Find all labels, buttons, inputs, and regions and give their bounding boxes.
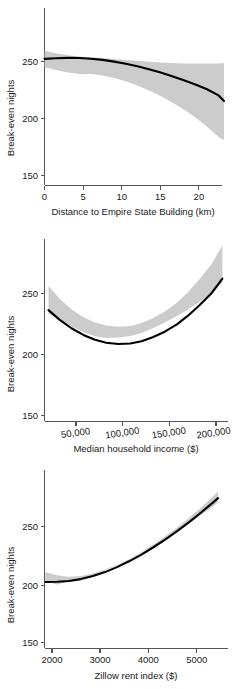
panel-1-xtick-label-10: 10 [116, 191, 127, 202]
panel-3-svg: 250 200 150 2000 3000 4000 5000 Zillow r… [0, 460, 237, 689]
panel-2-confidence-ribbon [49, 245, 223, 338]
figure-container: 250 200 150 0 5 10 15 20 Distance to Emp… [0, 0, 237, 689]
panel-1-y-axis-title: Break-even nights [5, 79, 16, 156]
panel-2-xtick-label-50000: 50,000 [60, 425, 90, 440]
panel-2-svg: 250 200 150 50,000 100,000 150,000 200,0… [0, 230, 237, 460]
panel-2-xtick-label-200000: 200,000 [196, 425, 232, 441]
panel-3-fit-line [45, 498, 218, 582]
panel-3-xtick-label-3000: 3000 [89, 654, 110, 665]
panel-distance-to-empire-state-building: 250 200 150 0 5 10 15 20 Distance to Emp… [0, 0, 237, 230]
panel-2-ytick-label-200: 200 [22, 349, 38, 360]
panel-1-ytick-label-150: 150 [22, 170, 38, 181]
panel-1-svg: 250 200 150 0 5 10 15 20 Distance to Emp… [0, 0, 237, 230]
panel-1-xtick-label-0: 0 [42, 191, 47, 202]
panel-3-ytick-label-150: 150 [22, 637, 38, 648]
panel-median-household-income: 250 200 150 50,000 100,000 150,000 200,0… [0, 230, 237, 460]
panel-3-xtick-label-4000: 4000 [138, 654, 159, 665]
panel-3-xtick-label-2000: 2000 [41, 654, 62, 665]
panel-3-ytick-label-200: 200 [22, 580, 38, 591]
panel-2-ytick-label-150: 150 [22, 410, 38, 421]
panel-3-xtick-label-5000: 5000 [186, 654, 207, 665]
panel-2-xtick-label-100000: 100,000 [104, 425, 140, 441]
panel-1-confidence-ribbon [45, 51, 224, 140]
panel-2-ytick-label-250: 250 [22, 288, 38, 299]
panel-2-xtick-label-150000: 150,000 [151, 425, 187, 441]
panel-1-ytick-label-200: 200 [22, 113, 38, 124]
panel-3-ytick-label-250: 250 [22, 521, 38, 532]
panel-1-x-axis-title: Distance to Empire State Building (km) [51, 206, 214, 217]
panel-1-xtick-label-5: 5 [80, 191, 85, 202]
panel-1-ytick-label-250: 250 [22, 56, 38, 67]
panel-3-x-axis-title: Zillow rent index ($) [95, 670, 178, 681]
panel-3-confidence-ribbon [45, 492, 218, 585]
panel-1-xtick-label-20: 20 [194, 191, 205, 202]
panel-2-x-axis-title: Median household income ($) [73, 443, 198, 454]
panel-1-xtick-label-15: 15 [155, 191, 166, 202]
panel-zillow-rent-index: 250 200 150 2000 3000 4000 5000 Zillow r… [0, 460, 237, 689]
panel-2-y-axis-title: Break-even nights [5, 315, 16, 392]
panel-3-y-axis-title: Break-even nights [5, 546, 16, 623]
